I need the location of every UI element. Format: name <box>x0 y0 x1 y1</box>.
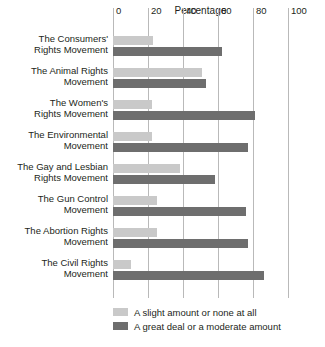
bar-great <box>113 47 222 56</box>
bar-group <box>113 97 288 129</box>
bar-slight <box>113 100 152 109</box>
bar-slight <box>113 196 157 205</box>
x-tick-label-60: 60 <box>218 5 232 16</box>
category-label: The Civil RightsMovement <box>0 257 108 279</box>
plot-area: 020406080100 <box>113 27 288 298</box>
bar-slight <box>113 132 152 141</box>
legend-swatch-icon-slight <box>113 308 128 316</box>
bar-chart: Percentage 020406080100 The Consumers'Ri… <box>0 0 325 347</box>
legend-item-great: A great deal or a moderate amount <box>113 319 325 333</box>
bar-group <box>113 65 288 97</box>
category-label: The Gun ControlMovement <box>0 193 108 215</box>
bar-group <box>113 193 288 225</box>
bar-slight <box>113 260 131 269</box>
category-label: The Animal RightsMovement <box>0 65 108 87</box>
bar-slight <box>113 228 157 237</box>
bar-great <box>113 111 255 120</box>
x-tick-label-0: 0 <box>113 5 121 16</box>
bar-great <box>113 207 246 216</box>
category-label: The Abortion RightsMovement <box>0 225 108 247</box>
bar-great <box>113 175 215 184</box>
bar-slight <box>113 164 180 173</box>
category-label: The Gay and LesbianRights Movement <box>0 161 108 183</box>
x-tick-label-80: 80 <box>253 5 267 16</box>
category-label: The Women'sRights Movement <box>0 97 108 119</box>
x-tick-label-100: 100 <box>288 5 307 16</box>
legend-item-slight: A slight amount or none at all <box>113 305 325 319</box>
legend-label-great: A great deal or a moderate amount <box>134 321 281 332</box>
legend-label-slight: A slight amount or none at all <box>134 307 257 318</box>
bar-group <box>113 225 288 257</box>
legend-swatch-icon-great <box>113 322 128 330</box>
chart-legend: A slight amount or none at all A great d… <box>113 305 325 333</box>
bar-slight <box>113 36 153 45</box>
bar-great <box>113 79 206 88</box>
bar-slight <box>113 68 202 77</box>
x-tick-label-40: 40 <box>183 5 197 16</box>
bar-great <box>113 143 248 152</box>
bar-great <box>113 271 264 280</box>
category-label: The Consumers'Rights Movement <box>0 33 108 55</box>
bar-great <box>113 239 248 248</box>
bar-group <box>113 257 288 289</box>
bar-group <box>113 33 288 65</box>
bar-group <box>113 129 288 161</box>
gridline-100 <box>288 27 289 298</box>
x-tick-label-20: 20 <box>148 5 162 16</box>
bar-group <box>113 161 288 193</box>
category-label: The EnvironmentalMovement <box>0 129 108 151</box>
